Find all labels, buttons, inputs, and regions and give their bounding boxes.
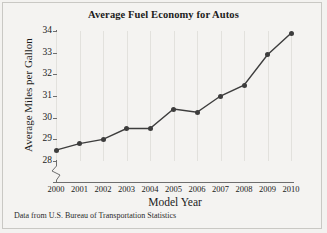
gridline-vertical xyxy=(291,31,292,161)
y-tick-label: 31 xyxy=(32,91,52,101)
plot-area xyxy=(56,31,291,161)
data-point xyxy=(218,94,223,99)
data-point xyxy=(148,126,153,131)
y-tick-mark xyxy=(53,74,57,75)
y-tick-mark xyxy=(53,96,57,97)
gridline-vertical xyxy=(244,31,245,161)
y-tick-label: 29 xyxy=(32,134,52,144)
x-axis-title: Model Year xyxy=(56,196,294,208)
figure-container: Average Fuel Economy for Autos 282930313… xyxy=(0,0,327,233)
y-tick-labels: 28293031323334 xyxy=(31,0,52,233)
y-tick-label: 30 xyxy=(32,113,52,123)
y-tick-mark xyxy=(53,31,57,32)
data-point xyxy=(289,31,294,36)
y-axis-title: Average Miles per Gallon xyxy=(22,15,34,175)
y-tick-mark xyxy=(53,118,57,119)
x-axis-line xyxy=(53,182,294,183)
x-tick-label: 2010 xyxy=(271,185,311,194)
gridline-vertical xyxy=(150,31,151,161)
y-tick-label: 34 xyxy=(32,26,52,36)
gridline-vertical xyxy=(174,31,175,161)
y-tick-label: 28 xyxy=(32,156,52,166)
data-point xyxy=(101,137,106,142)
gridline-vertical xyxy=(127,31,128,161)
data-point xyxy=(171,107,176,112)
data-point xyxy=(54,148,59,153)
gridline-vertical xyxy=(268,31,269,161)
y-tick-mark xyxy=(53,139,57,140)
axis-break-icon xyxy=(50,160,64,182)
source-note: Data from U.S. Bureau of Transportation … xyxy=(14,211,176,220)
y-tick-label: 32 xyxy=(32,69,52,79)
data-point xyxy=(124,126,129,131)
y-tick-label: 33 xyxy=(32,48,52,58)
data-point xyxy=(242,83,247,88)
y-tick-mark xyxy=(53,53,57,54)
data-point xyxy=(195,110,200,115)
gridline-vertical xyxy=(197,31,198,161)
